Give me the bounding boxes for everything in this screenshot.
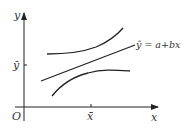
y-axis-label: y [13, 9, 21, 22]
regression-line [41, 45, 135, 81]
x-mean-label: x̄ [87, 110, 94, 123]
lower-confidence-curve [52, 70, 130, 96]
upper-confidence-curve [47, 28, 123, 54]
x-axis-label: x [151, 111, 158, 124]
y-mean-label: ȳ [12, 59, 20, 72]
origin-label: O [12, 110, 21, 123]
regression-equation-label: ŷ = a+bx [135, 39, 181, 50]
regression-diagram: y ȳ O x̄ x ŷ = a+bx [0, 0, 187, 135]
